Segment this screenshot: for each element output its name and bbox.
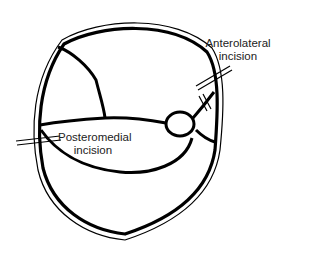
commissure-circle xyxy=(166,112,194,136)
anterolateral-incision-label: Anterolateral incision xyxy=(198,37,278,63)
posteromedial-incision-label: Posteromedial incision xyxy=(58,131,128,157)
right-lower-segment xyxy=(196,130,215,142)
transverse-line xyxy=(40,118,166,125)
upper-left-segment xyxy=(58,47,105,118)
